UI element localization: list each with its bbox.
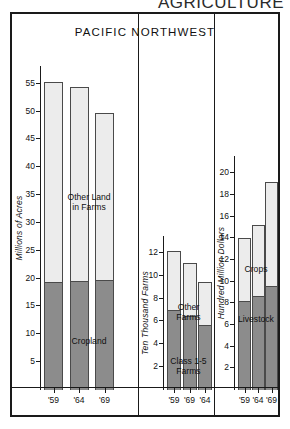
y-axis-tick bbox=[230, 324, 234, 325]
y-axis-tick bbox=[36, 222, 40, 223]
panel-farm-marketings: 2468101214161820Hundred Million DollarsC… bbox=[214, 14, 278, 390]
x-axis-tick bbox=[174, 388, 175, 393]
x-axis-year-label: '69 bbox=[266, 395, 277, 405]
bar-segment-upper bbox=[45, 83, 62, 283]
stacked-bar bbox=[70, 87, 89, 390]
x-axis-tick bbox=[205, 388, 206, 393]
y-axis-tick bbox=[159, 320, 163, 321]
y-axis-tick bbox=[36, 250, 40, 251]
y-axis-tick-label: 45 bbox=[26, 133, 35, 143]
x-axis-tick bbox=[272, 388, 273, 393]
bar-segment-lower bbox=[168, 310, 180, 390]
y-axis-tick bbox=[230, 172, 234, 173]
y-axis-tick bbox=[36, 333, 40, 334]
bar-segment-upper bbox=[96, 114, 113, 281]
y-axis-tick bbox=[36, 83, 40, 84]
y-axis-tick bbox=[230, 302, 234, 303]
bar-segment-upper bbox=[184, 264, 196, 317]
y-axis-tick-label: 35 bbox=[26, 189, 35, 199]
y-axis-title: Millions of Acres bbox=[14, 195, 24, 260]
stacked-bar bbox=[265, 182, 278, 390]
y-axis-tick bbox=[230, 259, 234, 260]
y-axis-tick bbox=[159, 252, 163, 253]
y-axis-tick-label: 30 bbox=[26, 217, 35, 227]
y-axis-tick bbox=[36, 111, 40, 112]
bar-segment-lower bbox=[239, 301, 250, 390]
bar-segment-lower bbox=[253, 296, 264, 390]
y-axis-line bbox=[163, 236, 164, 390]
panel-separator bbox=[138, 388, 139, 415]
y-axis-tick-label: 55 bbox=[26, 78, 35, 88]
x-axis-tick bbox=[54, 388, 55, 393]
y-axis-tick bbox=[230, 216, 234, 217]
y-axis-tick bbox=[159, 343, 163, 344]
y-axis-tick-label: 6 bbox=[153, 315, 158, 325]
y-axis-tick-label: 20 bbox=[220, 167, 229, 177]
x-axis-year-label: '69 bbox=[99, 395, 110, 405]
y-axis-tick-label: 16 bbox=[220, 211, 229, 221]
y-axis-tick bbox=[36, 361, 40, 362]
y-axis-tick-label: 4 bbox=[153, 338, 158, 348]
stacked-bar bbox=[238, 238, 251, 390]
y-axis-tick bbox=[36, 278, 40, 279]
x-axis-year-label: '69 bbox=[184, 395, 195, 405]
bar-segment-lower bbox=[266, 286, 277, 390]
bar-segment-lower bbox=[45, 282, 62, 390]
chart-frame: PACIFIC NORTHWEST 510152025303540455055M… bbox=[10, 12, 280, 417]
bar-segment-upper bbox=[266, 183, 277, 287]
y-axis-tick-label: 5 bbox=[30, 356, 35, 366]
plot-area: 510152025303540455055Millions of AcresOt… bbox=[12, 14, 278, 390]
stacked-bar bbox=[252, 225, 265, 390]
bar-segment-lower bbox=[96, 280, 113, 390]
panel-separator bbox=[138, 14, 139, 390]
stacked-bar bbox=[167, 251, 181, 390]
y-axis-tick bbox=[230, 194, 234, 195]
stacked-bar bbox=[44, 82, 63, 390]
y-axis-tick-label: 12 bbox=[149, 247, 158, 257]
y-axis-tick-label: 40 bbox=[26, 161, 35, 171]
x-axis-year-label: '59 bbox=[239, 395, 250, 405]
stacked-bar bbox=[198, 282, 212, 390]
y-axis-tick bbox=[159, 366, 163, 367]
x-axis-tick bbox=[79, 388, 80, 393]
bar-segment-upper bbox=[199, 283, 211, 326]
y-axis-tick-label: 25 bbox=[26, 245, 35, 255]
bar-segment-upper bbox=[239, 239, 250, 302]
y-axis-line bbox=[40, 66, 41, 390]
y-axis-tick bbox=[159, 298, 163, 299]
y-axis-tick bbox=[36, 138, 40, 139]
panel-separator bbox=[214, 14, 215, 390]
y-axis-tick-label: 50 bbox=[26, 106, 35, 116]
y-axis-tick bbox=[159, 275, 163, 276]
y-axis-tick bbox=[36, 305, 40, 306]
panel-separator bbox=[214, 388, 215, 415]
x-axis-tick bbox=[190, 388, 191, 393]
x-axis-tick bbox=[245, 388, 246, 393]
y-axis-title: Ten Thousand Farms bbox=[140, 270, 150, 354]
y-axis-tick bbox=[230, 237, 234, 238]
panel-land-in-farms: 510152025303540455055Millions of AcresOt… bbox=[12, 14, 138, 390]
stacked-bar bbox=[95, 113, 114, 390]
bar-segment-lower bbox=[71, 281, 88, 390]
panel-number-of-farms: 24681012Ten Thousand FarmsOther FarmsCla… bbox=[138, 14, 214, 390]
y-axis-tick bbox=[230, 367, 234, 368]
y-axis-tick-label: 18 bbox=[220, 189, 229, 199]
y-axis-tick bbox=[36, 194, 40, 195]
y-axis-tick-label: 8 bbox=[153, 293, 158, 303]
x-axis-year-label: '64 bbox=[252, 395, 263, 405]
y-axis-tick bbox=[230, 281, 234, 282]
bar-segment-upper bbox=[71, 88, 88, 282]
bar-segment-lower bbox=[199, 325, 211, 390]
x-axis-tick bbox=[105, 388, 106, 393]
bar-segment-lower bbox=[184, 316, 196, 390]
y-axis-tick-label: 15 bbox=[26, 300, 35, 310]
stacked-bar bbox=[183, 263, 197, 390]
x-axis-year-label: '59 bbox=[48, 395, 59, 405]
y-axis-tick bbox=[230, 346, 234, 347]
bar-segment-upper bbox=[253, 226, 264, 296]
y-axis-tick-label: 20 bbox=[26, 273, 35, 283]
x-axis-year-label: '64 bbox=[199, 395, 210, 405]
year-axis-strip: '59'64'69'59'69'64'59'64'69 bbox=[12, 387, 278, 415]
x-axis-year-label: '59 bbox=[168, 395, 179, 405]
y-axis-tick bbox=[36, 166, 40, 167]
